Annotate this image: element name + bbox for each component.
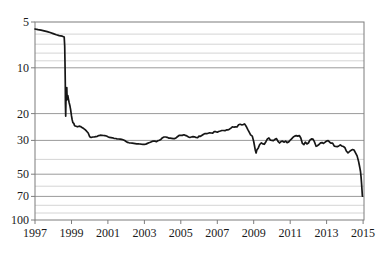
x-axis-label: 2011 (278, 226, 302, 240)
y-axis-label: 5 (23, 15, 29, 29)
x-axis-label: 2013 (315, 226, 339, 240)
y-axis-label: 70 (17, 189, 29, 203)
exchange-rate-log-chart: 5102030507010019971999200120032005200720… (0, 0, 381, 254)
x-axis-label: 2003 (132, 226, 156, 240)
chart-canvas: 5102030507010019971999200120032005200720… (0, 0, 381, 254)
y-axis-label: 30 (17, 133, 29, 147)
x-axis-label: 2001 (96, 226, 120, 240)
y-axis-label: 100 (11, 213, 29, 227)
x-axis-label: 1997 (23, 226, 47, 240)
x-axis-label: 2009 (242, 226, 266, 240)
data-line-series-1 (35, 29, 362, 196)
y-axis-label: 10 (17, 61, 29, 75)
x-axis-label: 2015 (351, 226, 375, 240)
y-axis-label: 50 (17, 167, 29, 181)
plot-border (35, 22, 364, 220)
x-axis-label: 2007 (205, 226, 229, 240)
x-axis-label: 2005 (169, 226, 193, 240)
y-axis-label: 20 (17, 107, 29, 121)
x-axis-label: 1999 (60, 226, 84, 240)
